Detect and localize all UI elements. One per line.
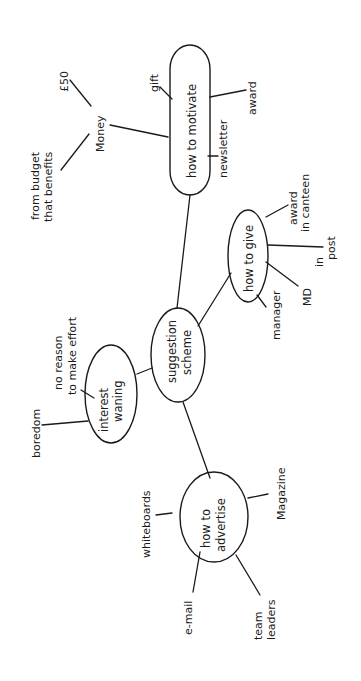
link-center-give [198, 273, 231, 326]
manager-label: manager [270, 290, 283, 340]
canteen-label-line2: in canteen [299, 174, 312, 232]
whiteboards-label: whiteboards [140, 490, 153, 558]
interest-label-line2: waning [111, 380, 125, 422]
link-motivate-money [110, 125, 168, 137]
md-label: MD [301, 288, 314, 306]
link-money-budget [61, 134, 89, 170]
advertise-label-line2: advertise [214, 498, 228, 552]
link-center-motivate [177, 195, 190, 308]
advertise-label-line1: how to [199, 509, 213, 548]
team-label-line2: leaders [265, 599, 278, 640]
link-center-interest [137, 368, 152, 374]
motivate-label: how to motivate [185, 84, 199, 178]
give-label: how to give [242, 225, 256, 292]
link-give-md [266, 262, 298, 286]
link-advertise-team [236, 555, 260, 595]
link-give-manager [257, 295, 266, 307]
team-label-line1: team [252, 611, 265, 640]
link-advertise-whiteboards [156, 513, 172, 515]
magazine-label: Magazine [275, 467, 288, 520]
fifty-label: £50 [58, 71, 71, 92]
center-label-line1: suggestion [165, 320, 179, 383]
budget-label-line1: from budget [29, 151, 42, 220]
interest-label-line1: interest [97, 387, 111, 432]
link-interest-boredom [42, 421, 88, 425]
center-label-line2: scheme [180, 330, 194, 375]
reason-label-line2: to make effort [66, 316, 79, 395]
newsletter-label: newsletter [217, 119, 230, 178]
link-give-post [268, 245, 323, 247]
budget-label-line2: that benefits [42, 151, 55, 222]
link-give-canteen [266, 205, 288, 217]
reason-label-line1: no reason [52, 336, 65, 390]
money-label: Money [94, 115, 107, 152]
award-label: award [246, 81, 259, 115]
boredom-label: boredom [30, 409, 43, 458]
link-money-fifty [70, 80, 91, 106]
email-label: e-mail [182, 601, 195, 635]
link-advertise-magazine [248, 494, 268, 498]
mind-map: suggestion scheme how to motivate Money … [0, 0, 361, 681]
gift-label: gift [148, 73, 161, 92]
link-motivate-award [210, 90, 246, 97]
post-label-line2: post [325, 236, 338, 260]
link-center-advertise [183, 402, 210, 478]
link-interest-reason [81, 390, 94, 398]
